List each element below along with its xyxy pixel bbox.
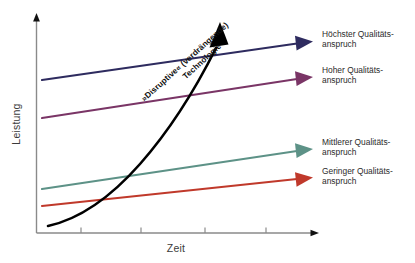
y-axis-label: Leistung	[10, 94, 22, 154]
x-axis-arrow-icon	[311, 230, 320, 237]
series-label-low-line-2: anspruch	[322, 176, 393, 186]
series-label-high-line-1: Hoher Qualitäts-	[322, 65, 383, 75]
series-label-highest-line-1: Höchster Qualitäts-	[322, 29, 394, 39]
series-label-high-line-2: anspruch	[322, 75, 383, 85]
y-axis-arrow-icon	[33, 13, 40, 22]
x-axis-label: Zeit	[146, 242, 206, 254]
series-label-medium-quality: Mittlerer Qualitäts- anspruch	[322, 137, 390, 157]
series-label-medium-line-1: Mittlerer Qualitäts-	[322, 137, 390, 147]
series-label-highest-quality: Höchster Qualitäts- anspruch	[322, 29, 394, 49]
series-label-low-line-1: Geringer Qualitäts-	[322, 166, 393, 176]
series-arrowhead-medium	[295, 143, 313, 158]
series-arrowhead-low	[295, 172, 313, 187]
series-label-high-quality: Hoher Qualitäts- anspruch	[322, 65, 383, 85]
series-arrowhead-high	[295, 71, 313, 86]
series-label-low-quality: Geringer Qualitäts- anspruch	[322, 166, 393, 186]
series-label-highest-line-2: anspruch	[322, 39, 394, 49]
series-arrowhead-highest	[295, 36, 313, 51]
series-low-quality	[42, 172, 313, 206]
x-axis-ticks	[81, 228, 266, 234]
series-label-medium-line-2: anspruch	[322, 147, 390, 157]
chart-container: Leistung Zeit »Disruptive« (verdrängende…	[0, 0, 415, 263]
